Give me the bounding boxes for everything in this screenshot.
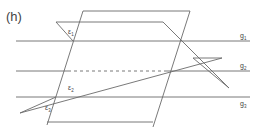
line-label-g2: g2	[240, 62, 247, 71]
three-planes-three-lines-diagram: (h) ε1 ε2 ε3 g1 g2 g3	[0, 0, 256, 127]
plane-e1-edges	[56, 22, 229, 88]
figure-label: (h)	[6, 9, 22, 24]
plane-label-e1: ε1	[68, 28, 74, 37]
plane-e2-left-edge	[47, 11, 83, 125]
plane-label-e3: ε3	[45, 104, 51, 113]
plane-e2-top-right-edges	[83, 11, 190, 127]
line-label-g3: g3	[240, 100, 247, 109]
plane-e3-edges	[20, 58, 222, 113]
line-label-g1: g1	[240, 32, 247, 41]
plane-label-e2: ε2	[68, 84, 74, 93]
plane-e3-right-edge	[193, 58, 229, 88]
